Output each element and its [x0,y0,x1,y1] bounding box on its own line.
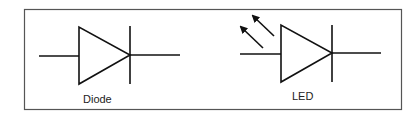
figure-frame [25,10,402,110]
diode-label: Diode [83,93,112,105]
light-arrow-icon [241,27,263,48]
diode-symbol [39,26,180,84]
led-label: LED [292,90,313,102]
diode-led-diagram [0,0,420,116]
light-arrow-icon [253,16,274,36]
led-symbol [240,16,381,82]
